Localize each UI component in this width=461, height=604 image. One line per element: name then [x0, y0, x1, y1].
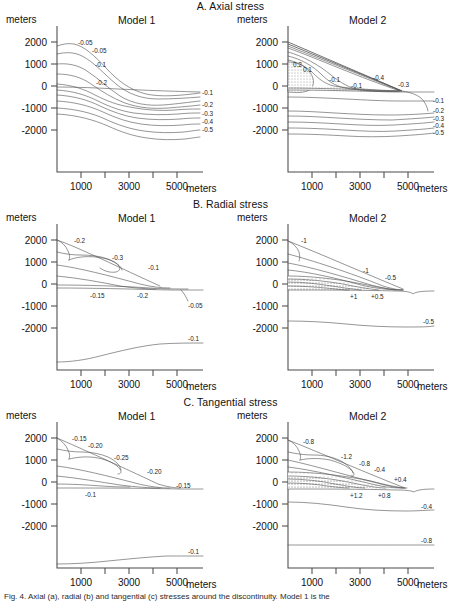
subplot-b-model1: meters Model 1 meters: [0, 210, 230, 394]
xtick-5000: 5000: [166, 379, 189, 390]
contour-label: -0.20: [147, 468, 162, 475]
contour-label: +1: [350, 293, 358, 300]
y-tickmarks: [51, 438, 57, 526]
contour-label: -0.1: [329, 76, 340, 83]
plot-area-c-model2: 2000 1000 0 -1000 -2000 1000 3000 5000: [231, 408, 461, 592]
ytick-neg2000: -2000: [252, 323, 278, 334]
ytick-2000: 2000: [256, 37, 279, 48]
panel-axial-stress: A. Axial stress meters Model 1 meters: [0, 0, 461, 196]
contour-label: -0.3: [398, 81, 409, 88]
contour-label: -0.1: [188, 548, 199, 555]
contour-label: -0.15: [72, 435, 87, 442]
contour-label: -0.1: [148, 264, 159, 271]
xtick-3000: 3000: [349, 181, 372, 192]
xtick-1000: 1000: [70, 181, 93, 192]
ytick-1000: 1000: [25, 455, 48, 466]
y-tickmarks: [51, 240, 57, 328]
contour-label: -0.4: [373, 74, 384, 81]
contours-c-model1: [57, 438, 203, 564]
y-tickmarks: [282, 240, 288, 328]
axes-a-model2: 2000 1000 0 -1000 -2000 1000 3000 5000: [252, 26, 434, 192]
y-tickmarks: [282, 438, 288, 526]
contour-label: -0.15: [90, 292, 105, 299]
ytick-1000: 1000: [256, 257, 279, 268]
axes-c-model1: 2000 1000 0 -1000 -2000 1000 3000 5000: [21, 422, 203, 588]
contour-label: -0.1: [202, 89, 213, 96]
contour-label: +0.5: [371, 293, 384, 300]
xtick-3000: 3000: [118, 181, 141, 192]
panel-title-b: B. Radial stress: [0, 198, 461, 210]
contour-label: -0.15: [176, 482, 191, 489]
panel-radial-stress: B. Radial stress meters Model 1 meters: [0, 198, 461, 394]
subplot-c-model1: meters Model 1 meters: [0, 408, 230, 592]
contour-label: -0.4: [433, 122, 444, 129]
ytick-1000: 1000: [25, 257, 48, 268]
figure-contour-stress-panels: A. Axial stress meters Model 1 meters: [0, 0, 461, 604]
xtick-1000: 1000: [301, 577, 324, 588]
ytick-0: 0: [272, 279, 278, 290]
ytick-0: 0: [41, 279, 47, 290]
axes-c-model2: 2000 1000 0 -1000 -2000 1000 3000 5000: [252, 422, 434, 588]
xtick-5000: 5000: [397, 577, 420, 588]
x-tickmarks: [312, 172, 408, 178]
x-tickmarks: [81, 568, 177, 574]
contour-label: -1: [301, 237, 307, 244]
panel-title-c: C. Tangential stress: [0, 396, 461, 408]
ytick-neg1000: -1000: [21, 499, 47, 510]
contour-label: -0.4: [374, 466, 385, 473]
ytick-1000: 1000: [256, 59, 279, 70]
ytick-neg1000: -1000: [21, 103, 47, 114]
subplot-a-model2: meters Model 2 meters: [231, 12, 461, 196]
xtick-1000: 1000: [70, 379, 93, 390]
xtick-3000: 3000: [349, 577, 372, 588]
contour-label: -0.2: [137, 292, 148, 299]
contour-label: -0.4: [202, 118, 213, 125]
xtick-5000: 5000: [166, 181, 189, 192]
y-tickmarks: [51, 42, 57, 130]
contour-label: -0.2: [202, 101, 213, 108]
x-tickmarks: [81, 172, 177, 178]
contour-label: -0.2: [74, 237, 85, 244]
ytick-0: 0: [41, 81, 47, 92]
contour-label: -0.8: [421, 537, 432, 544]
ytick-2000: 2000: [25, 433, 48, 444]
axes-a-model1: 2000 1000 0 -1000 -2000 1000 3000 5000: [21, 26, 203, 192]
ytick-1000: 1000: [256, 455, 279, 466]
plot-area-a-model1: 2000 1000 0 -1000 -2000 1000 3000 5000: [0, 12, 230, 196]
plot-area-a-model2: 2000 1000 0 -1000 -2000 1000 3000 5000: [231, 12, 461, 196]
x-tickmarks: [81, 370, 177, 376]
ytick-2000: 2000: [25, 37, 48, 48]
contour-label: +0.8: [378, 492, 391, 499]
contour-label: -0.1: [433, 97, 444, 104]
x-tickmarks: [312, 568, 408, 574]
contour-label: -0.3: [202, 110, 213, 117]
xtick-5000: 5000: [166, 577, 189, 588]
contour-label: -0.05: [78, 39, 93, 46]
contour-label: -0.5: [433, 129, 444, 136]
contour-label: -1.2: [341, 453, 352, 460]
contour-label: +1.2: [350, 492, 363, 499]
contour-label: -0.5: [385, 274, 396, 281]
ytick-neg1000: -1000: [21, 301, 47, 312]
subplot-c-model2: meters Model 2 meters: [231, 408, 461, 592]
contour-label: -0.1: [85, 491, 96, 498]
contour-label: -0.1: [95, 61, 106, 68]
contour-label: +0.4: [394, 476, 407, 483]
plot-area-b-model1: 2000 1000 0 -1000 -2000 1000 3000 5000: [0, 210, 230, 394]
ytick-neg2000: -2000: [21, 125, 47, 136]
contour-label: -0.4: [421, 503, 432, 510]
contour-label: -0.3: [112, 254, 123, 261]
xtick-5000: 5000: [397, 379, 420, 390]
figure-caption: Fig. 4. Axial (a), radial (b) and tangen…: [4, 592, 459, 603]
x-tickmarks: [312, 370, 408, 376]
xtick-5000: 5000: [397, 181, 420, 192]
ytick-1000: 1000: [25, 59, 48, 70]
contour-label: -0.20: [88, 442, 103, 449]
xtick-3000: 3000: [118, 379, 141, 390]
ytick-neg2000: -2000: [21, 323, 47, 334]
contour-label: -0.05: [92, 47, 107, 54]
contours-a-model1: [57, 44, 200, 140]
ytick-0: 0: [272, 81, 278, 92]
xtick-3000: 3000: [118, 577, 141, 588]
contour-label: -0.5: [202, 126, 213, 133]
